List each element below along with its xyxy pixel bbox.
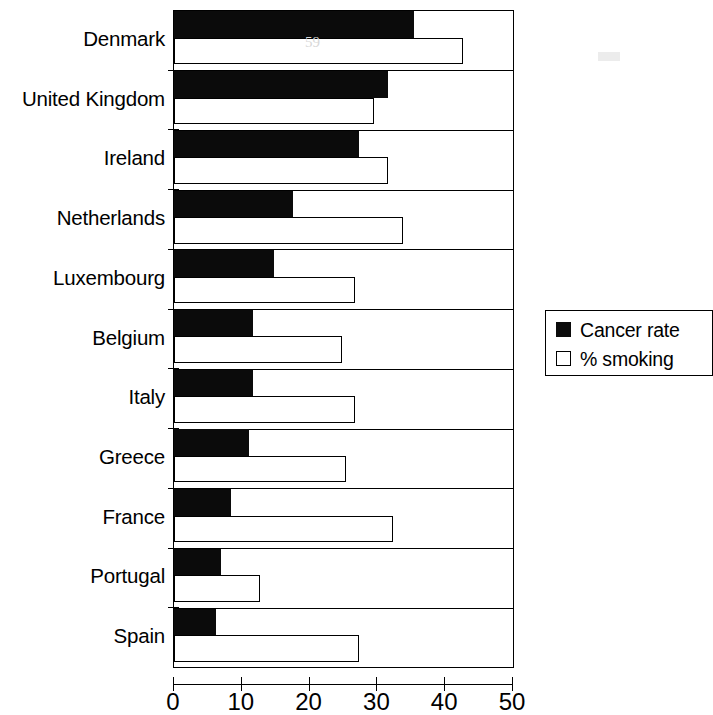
bar-group	[174, 130, 513, 190]
bar-smoking	[174, 38, 463, 65]
bar-group	[174, 250, 513, 310]
category-label-united-kingdom: United Kingdom	[0, 89, 165, 110]
bar-group	[174, 429, 513, 489]
category-label-belgium: Belgium	[0, 328, 165, 349]
scan-artifact-speck	[598, 52, 620, 61]
legend-item-cancer-rate: Cancer rate	[556, 315, 712, 344]
bar-smoking	[174, 396, 355, 423]
bar-group	[174, 369, 513, 429]
group-separator	[174, 667, 513, 668]
bar-smoking	[174, 98, 374, 125]
bar-cancer-rate	[174, 11, 414, 38]
category-label-denmark: Denmark	[0, 29, 165, 50]
category-label-italy: Italy	[0, 387, 165, 408]
bar-group	[174, 11, 513, 71]
bar-cancer-rate	[174, 370, 253, 397]
category-label-greece: Greece	[0, 447, 165, 468]
x-tick-label-30: 30	[346, 689, 406, 715]
legend-label: % smoking	[580, 349, 674, 369]
category-label-ireland: Ireland	[0, 148, 165, 169]
bar-group	[174, 549, 513, 609]
empty-square-icon	[556, 351, 571, 366]
bar-group	[174, 310, 513, 370]
category-tick	[168, 607, 179, 608]
category-tick	[168, 70, 179, 71]
x-tick-label-0: 0	[143, 689, 203, 715]
bar-cancer-rate	[174, 131, 359, 158]
category-axis-labels: DenmarkUnited KingdomIrelandNetherlandsL…	[0, 0, 165, 715]
bar-cancer-rate	[174, 549, 221, 576]
category-label-portugal: Portugal	[0, 566, 165, 587]
bar-group	[174, 489, 513, 549]
bar-group	[174, 190, 513, 250]
bar-smoking	[174, 575, 260, 602]
filled-square-icon	[556, 322, 571, 337]
x-tick-label-10: 10	[211, 689, 271, 715]
category-tick	[168, 428, 179, 429]
bar-cancer-rate	[174, 191, 293, 218]
x-tick-label-40: 40	[414, 689, 474, 715]
category-tick	[168, 309, 179, 310]
category-label-france: France	[0, 507, 165, 528]
plot-area	[173, 10, 514, 668]
bar-smoking	[174, 635, 359, 662]
legend: Cancer rate % smoking	[545, 310, 713, 376]
category-label-netherlands: Netherlands	[0, 208, 165, 229]
category-label-spain: Spain	[0, 626, 165, 647]
bar-smoking	[174, 217, 403, 244]
category-tick	[168, 548, 179, 549]
bar-cancer-rate	[174, 489, 231, 516]
x-axis-line	[173, 684, 513, 685]
bar-group	[174, 71, 513, 131]
bar-cancer-rate	[174, 250, 274, 277]
legend-item-smoking: % smoking	[556, 344, 712, 373]
category-tick	[168, 488, 179, 489]
bar-group	[174, 608, 513, 668]
bar-smoking	[174, 277, 355, 304]
category-label-luxembourg: Luxembourg	[0, 268, 165, 289]
category-tick	[168, 368, 179, 369]
bar-smoking	[174, 516, 393, 543]
bar-smoking	[174, 456, 346, 483]
bar-cancer-rate	[174, 609, 216, 636]
category-tick	[168, 129, 179, 130]
bar-cancer-rate	[174, 429, 249, 456]
x-tick-label-20: 20	[279, 689, 339, 715]
category-tick	[168, 249, 179, 250]
x-tick-label-50: 50	[482, 689, 542, 715]
legend-label: Cancer rate	[580, 320, 680, 340]
bar-smoking	[174, 336, 342, 363]
bar-smoking	[174, 157, 388, 184]
category-tick	[168, 189, 179, 190]
bar-cancer-rate	[174, 71, 388, 98]
bar-cancer-rate	[174, 310, 253, 337]
